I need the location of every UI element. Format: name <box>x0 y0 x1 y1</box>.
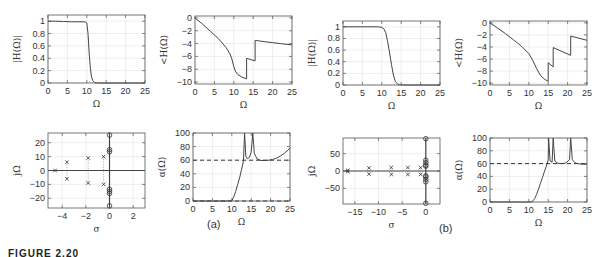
y-axis-label: jΩ <box>307 166 317 177</box>
x-tick-label: 0 <box>107 211 112 221</box>
y-axis-label: α(Ω) <box>157 157 167 178</box>
subplot-a-phase: 05101520250−2−4−6−8−10Ω<H(Ω) <box>159 13 297 110</box>
x-tick-label: 25 <box>582 205 592 215</box>
y-axis-label: |H(Ω)| <box>307 39 318 67</box>
y-tick-label: −10 <box>177 77 192 87</box>
y-tick-label: 0 <box>482 18 487 28</box>
y-tick-label: −20 <box>30 193 45 203</box>
plot-frame <box>343 21 440 85</box>
y-tick-label: 40 <box>180 169 190 179</box>
y-tick-label: 40 <box>477 171 487 181</box>
y-tick-label: −10 <box>30 179 45 189</box>
series-attenuation <box>490 138 587 202</box>
y-tick-label: 80 <box>180 142 190 152</box>
subplot-b-mag: 051015202500.20.40.60.81Ω|H(Ω)| <box>307 21 445 111</box>
x-tick-label: −15 <box>347 207 362 217</box>
pole-marker <box>419 166 423 170</box>
y-tick-label: −4 <box>477 42 487 52</box>
x-tick-label: 5 <box>210 204 215 214</box>
x-tick-label: 5 <box>507 205 512 215</box>
x-axis-label: Ω <box>238 217 245 227</box>
x-tick-label: 0 <box>423 207 428 217</box>
x-tick-label: 0 <box>192 87 197 97</box>
y-tick-label: −50 <box>325 183 340 193</box>
pole-marker <box>389 166 393 170</box>
subplot-b-pz: −15−10−50500−50σjΩ <box>307 136 440 230</box>
subplot-b-atten: 0510152025020406080100Ωα(Ω) <box>454 133 592 228</box>
x-tick-label: 10 <box>229 87 239 97</box>
y-axis-label: jΩ <box>12 165 22 176</box>
y-tick-label: −10 <box>472 78 487 88</box>
series-magnitude <box>48 21 145 83</box>
y-tick-label: 60 <box>477 159 487 169</box>
x-axis-label: σ <box>388 220 394 230</box>
plot-frame <box>48 15 145 83</box>
x-tick-label: 15 <box>543 205 553 215</box>
x-tick-label: 0 <box>190 204 195 214</box>
panel-label-b: (b) <box>439 222 452 234</box>
x-tick-label: 15 <box>248 87 258 97</box>
y-tick-label: −6 <box>182 51 192 61</box>
y-tick-label: 0.8 <box>327 33 340 43</box>
y-tick-label: 0.4 <box>32 53 45 63</box>
y-tick-label: −2 <box>182 26 192 36</box>
series-attenuation <box>193 133 290 201</box>
x-tick-label: 25 <box>435 88 445 98</box>
y-tick-label: 0 <box>187 13 192 23</box>
figure-caption: FIGURE 2.20 <box>8 248 79 257</box>
y-tick-label: 100 <box>175 128 190 138</box>
y-tick-label: −4 <box>182 39 192 49</box>
y-tick-label: 20 <box>477 184 487 194</box>
y-tick-label: −6 <box>477 54 487 64</box>
x-tick-label: 20 <box>121 86 131 96</box>
y-tick-label: 20 <box>180 182 190 192</box>
series-phase <box>490 23 587 82</box>
x-tick-label: 15 <box>543 88 553 98</box>
x-tick-label: 20 <box>266 204 276 214</box>
x-tick-label: −5 <box>397 207 407 217</box>
series-phase <box>195 18 292 79</box>
x-axis-label: Ω <box>535 218 542 228</box>
x-tick-label: 5 <box>212 87 217 97</box>
y-tick-label: 0 <box>335 80 340 90</box>
x-tick-label: 5 <box>65 86 70 96</box>
x-tick-label: 20 <box>416 88 426 98</box>
plot-frame <box>490 21 587 85</box>
x-tick-label: 15 <box>101 86 111 96</box>
y-tick-label: 0.4 <box>327 57 340 67</box>
y-axis-label: |H(Ω)| <box>12 35 23 63</box>
y-tick-label: −8 <box>477 66 487 76</box>
x-tick-label: 15 <box>246 204 256 214</box>
x-tick-label: −4 <box>57 211 67 221</box>
y-tick-label: 10 <box>35 152 45 162</box>
y-tick-label: 60 <box>180 155 190 165</box>
y-tick-label: 0 <box>482 197 487 207</box>
x-tick-label: 0 <box>340 88 345 98</box>
pole-marker <box>367 166 371 170</box>
plot-frame <box>193 133 290 201</box>
x-tick-label: 15 <box>396 88 406 98</box>
x-tick-label: 20 <box>563 205 573 215</box>
subplot-a-atten: 0510152025020406080100Ωα(Ω) <box>157 128 295 227</box>
x-tick-label: 0 <box>487 88 492 98</box>
plot-frame <box>490 138 587 202</box>
x-tick-label: 25 <box>285 204 295 214</box>
y-tick-label: 1 <box>335 22 340 32</box>
x-tick-label: −2 <box>81 211 91 221</box>
x-tick-label: 20 <box>563 88 573 98</box>
x-tick-label: 10 <box>524 205 534 215</box>
x-axis-label: Ω <box>93 99 100 109</box>
y-axis-label: α(Ω) <box>454 160 464 181</box>
pole-marker <box>65 160 69 164</box>
subplot-b-phase: 05101520250−2−4−6−8−10Ω<H(Ω) <box>454 18 592 111</box>
y-tick-label: 0.6 <box>32 41 45 51</box>
y-tick-label: 1 <box>40 16 45 26</box>
y-tick-label: 50 <box>330 149 340 159</box>
y-axis-label: <H(Ω) <box>159 35 169 65</box>
x-axis-label: σ <box>93 224 99 234</box>
x-tick-label: 0 <box>45 86 50 96</box>
x-tick-label: 10 <box>524 88 534 98</box>
series-magnitude <box>343 27 440 85</box>
x-tick-label: 5 <box>507 88 512 98</box>
pole-marker <box>406 166 410 170</box>
